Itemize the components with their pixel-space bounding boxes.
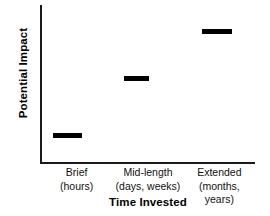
plot-area [41,5,255,162]
x-axis-title: Time Invested [41,196,255,208]
data-marker-mid-length [124,76,149,81]
x-tick-brief: Brief (hours) [41,166,112,194]
x-tick-mid-length-label: Mid-length [123,166,172,178]
data-marker-extended [202,29,232,34]
y-axis-title: Potential Impact [12,0,34,158]
x-tick-mid-length: Mid-length (days, weeks) [112,166,183,194]
x-tick-brief-sublabel: (hours) [41,180,112,194]
x-tick-brief-label: Brief [66,166,88,178]
x-axis-tick-labels: Brief (hours) Mid-length (days, weeks) E… [41,166,255,194]
data-marker-brief [53,133,82,138]
x-tick-extended: Extended (months, years) [184,166,255,194]
chart-figure: Potential Impact Brief (hours) Mid-lengt… [0,0,270,216]
x-tick-extended-label: Extended [197,166,241,178]
x-tick-mid-length-sublabel: (days, weeks) [112,180,183,194]
x-axis-line [40,162,255,164]
